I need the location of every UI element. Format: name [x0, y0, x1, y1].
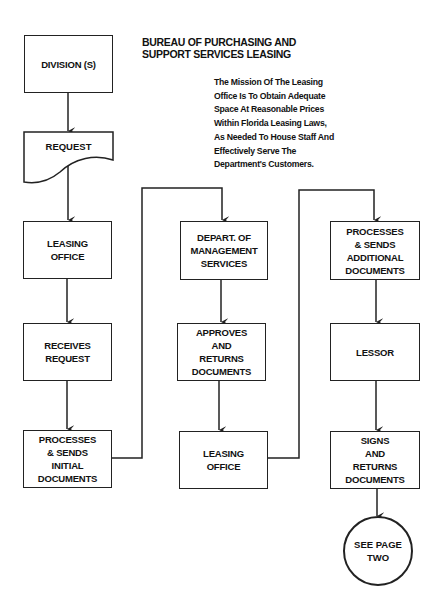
lessor-box: LESSOR [330, 323, 420, 381]
request-document: REQUEST [24, 141, 113, 152]
processes-additional-documents-box: PROCESSES & SENDS ADDITIONAL DOCUMENTS [330, 221, 420, 280]
approves-returns-documents-box: APPROVES AND RETURNS DOCUMENTS [177, 323, 266, 381]
mission-statement: The Mission Of The Leasing Office Is To … [214, 76, 334, 172]
processes-initial-documents-box: PROCESSES & SENDS INITIAL DOCUMENTS [23, 430, 112, 488]
dept-management-services-box: DEPART. OF MANAGEMENT SERVICES [180, 221, 268, 280]
receives-request-box: RECEIVES REQUEST [23, 323, 112, 381]
division-box: DIVISION (S) [24, 35, 113, 93]
leasing-office-box: LEASING OFFICE [23, 221, 112, 279]
see-page-two-connector: SEE PAGE TWO [344, 538, 412, 564]
leasing-office-box-2: LEASING OFFICE [179, 431, 268, 489]
signs-returns-documents-box: SIGNS AND RETURNS DOCUMENTS [330, 431, 420, 489]
diagram-title: BUREAU OF PURCHASING AND SUPPORT SERVICE… [142, 36, 296, 60]
